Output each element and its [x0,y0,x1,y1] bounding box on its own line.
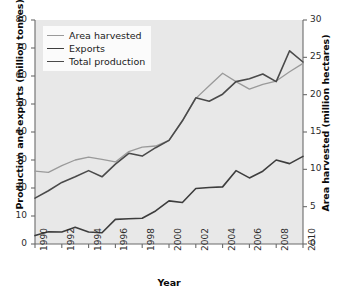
y-axis-left-tick-label: 50 [5,98,27,108]
legend-line-swatch [47,61,64,62]
y-axis-left-tick-label: 60 [5,70,27,80]
y-axis-right-tick-label: 5 [310,201,332,211]
x-axis-tick-label: 1992 [66,228,76,251]
chart-figure: Production and exports (million tonnes) … [0,0,343,295]
y-axis-right-tick-label: 15 [310,126,332,136]
y-axis-right-tick-label: 10 [310,163,332,173]
x-axis-tick-label: 2000 [173,228,183,251]
x-axis-tick-label: 2010 [307,228,317,251]
x-axis-tick-label: 2006 [253,228,263,251]
x-axis-tick-label: 1990 [39,228,49,251]
y-axis-left-tick-label: 20 [5,182,27,192]
chart-legend: Area harvestedExportsTotal production [43,26,151,71]
x-axis-tick-label: 2002 [200,228,210,251]
legend-item[interactable]: Total production [47,55,145,68]
y-axis-left-tick-label: 70 [5,42,27,52]
legend-item[interactable]: Exports [47,42,145,55]
y-axis-left-tick-label: 30 [5,154,27,164]
legend-item-label: Exports [69,43,105,54]
x-axis-tick-label: 1994 [93,228,103,251]
legend-line-swatch [47,35,64,36]
legend-line-swatch [47,48,64,49]
y-axis-right-tick-label: 25 [310,51,332,61]
legend-item-label: Total production [69,56,145,67]
y-axis-left-tick-label: 80 [5,14,27,24]
x-axis-tick-label: 1996 [119,228,129,251]
x-axis-tick-label: 1998 [146,228,156,251]
y-axis-left-tick-label: 40 [5,126,27,136]
legend-item[interactable]: Area harvested [47,29,145,42]
y-axis-left-tick-label: 10 [5,210,27,220]
x-axis-tick-label: 2004 [227,228,237,251]
y-axis-right-tick-label: 30 [310,14,332,24]
legend-item-label: Area harvested [69,30,142,41]
y-axis-right-tick-label: 20 [310,89,332,99]
x-axis-tick-label: 2008 [280,228,290,251]
y-axis-left-tick-label: 0 [5,238,27,248]
